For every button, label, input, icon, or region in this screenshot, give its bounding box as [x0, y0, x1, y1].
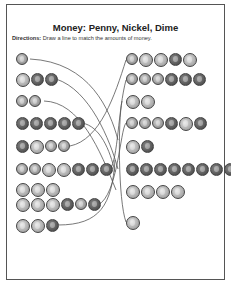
dime-coin-icon	[126, 53, 138, 65]
nickel-coin-icon	[31, 219, 45, 233]
nickel-coin-icon	[126, 95, 140, 109]
penny-coin-icon	[179, 73, 192, 86]
penny-coin-icon	[168, 163, 181, 176]
nickel-coin-icon	[183, 53, 197, 67]
penny-coin-icon	[88, 198, 101, 211]
penny-coin-icon	[72, 163, 85, 176]
dime-coin-icon	[16, 163, 28, 175]
nickel-coin-icon	[126, 140, 140, 154]
penny-coin-icon	[165, 73, 178, 86]
left-coin-group-3[interactable]	[16, 95, 41, 107]
penny-coin-icon	[16, 117, 29, 130]
left-coin-group-8[interactable]	[16, 198, 101, 212]
penny-coin-icon	[126, 163, 139, 176]
right-coin-group-5[interactable]	[126, 140, 154, 154]
penny-coin-icon	[194, 117, 207, 130]
penny-coin-icon	[72, 117, 85, 130]
penny-coin-icon	[86, 163, 99, 176]
dime-coin-icon	[126, 117, 138, 129]
penny-coin-icon	[30, 117, 43, 130]
nickel-coin-icon	[31, 183, 45, 197]
dime-coin-icon	[75, 198, 87, 210]
nickel-coin-icon	[126, 216, 140, 230]
nickel-coin-icon	[42, 163, 56, 177]
nickel-coin-icon	[16, 219, 30, 233]
dime-coin-icon	[16, 53, 28, 65]
nickel-coin-icon	[31, 198, 45, 212]
penny-coin-icon	[61, 198, 74, 211]
left-coin-group-7[interactable]	[16, 183, 60, 197]
nickel-coin-icon	[16, 183, 30, 197]
right-coin-group-4[interactable]	[126, 117, 207, 131]
match-line	[110, 80, 126, 169]
nickel-coin-icon	[57, 163, 71, 177]
penny-coin-icon	[16, 140, 29, 153]
right-coin-group-2[interactable]	[126, 73, 206, 86]
penny-coin-icon	[44, 117, 57, 130]
left-coin-group-5[interactable]	[16, 140, 70, 154]
nickel-coin-icon	[171, 185, 185, 199]
right-coin-group-3[interactable]	[126, 95, 155, 109]
nickel-coin-icon	[179, 117, 193, 131]
dime-coin-icon	[16, 95, 28, 107]
nickel-coin-icon	[154, 53, 168, 67]
penny-coin-icon	[154, 163, 167, 176]
dime-coin-icon	[139, 73, 151, 85]
penny-coin-icon	[169, 53, 182, 66]
left-coin-group-1[interactable]	[16, 53, 28, 65]
dime-coin-icon	[29, 163, 41, 175]
dime-coin-icon	[152, 117, 164, 129]
nickel-coin-icon	[30, 140, 44, 154]
nickel-coin-icon	[126, 185, 140, 199]
penny-coin-icon	[141, 140, 154, 153]
penny-coin-icon	[45, 73, 58, 86]
penny-coin-icon	[196, 163, 209, 176]
dime-coin-icon	[139, 117, 151, 129]
nickel-coin-icon	[46, 198, 60, 212]
penny-coin-icon	[224, 163, 231, 176]
dime-coin-icon	[29, 95, 41, 107]
penny-coin-icon	[165, 117, 178, 130]
right-coin-group-8[interactable]	[126, 216, 140, 230]
right-coin-group-1[interactable]	[126, 53, 197, 67]
nickel-coin-icon	[156, 185, 170, 199]
left-coin-group-6[interactable]	[16, 163, 113, 177]
penny-coin-icon	[182, 163, 195, 176]
nickel-coin-icon	[141, 95, 155, 109]
right-coin-group-6[interactable]	[126, 163, 231, 176]
nickel-coin-icon	[139, 53, 153, 67]
nickel-coin-icon	[16, 73, 30, 87]
penny-coin-icon	[210, 163, 223, 176]
right-coin-group-7[interactable]	[126, 185, 185, 199]
dime-coin-icon	[126, 73, 138, 85]
dime-coin-icon	[152, 73, 164, 85]
left-coin-group-9[interactable]	[16, 219, 59, 233]
match-line	[119, 101, 126, 222]
penny-coin-icon	[193, 73, 206, 86]
left-coin-group-4[interactable]	[16, 117, 85, 130]
penny-coin-icon	[46, 219, 59, 232]
penny-coin-icon	[31, 73, 44, 86]
nickel-coin-icon	[46, 183, 60, 197]
left-coin-group-2[interactable]	[16, 73, 58, 87]
nickel-coin-icon	[16, 198, 30, 212]
dime-coin-icon	[45, 140, 57, 152]
penny-coin-icon	[140, 163, 153, 176]
dime-coin-icon	[58, 140, 70, 152]
nickel-coin-icon	[141, 185, 155, 199]
penny-coin-icon	[100, 163, 113, 176]
penny-coin-icon	[58, 117, 71, 130]
